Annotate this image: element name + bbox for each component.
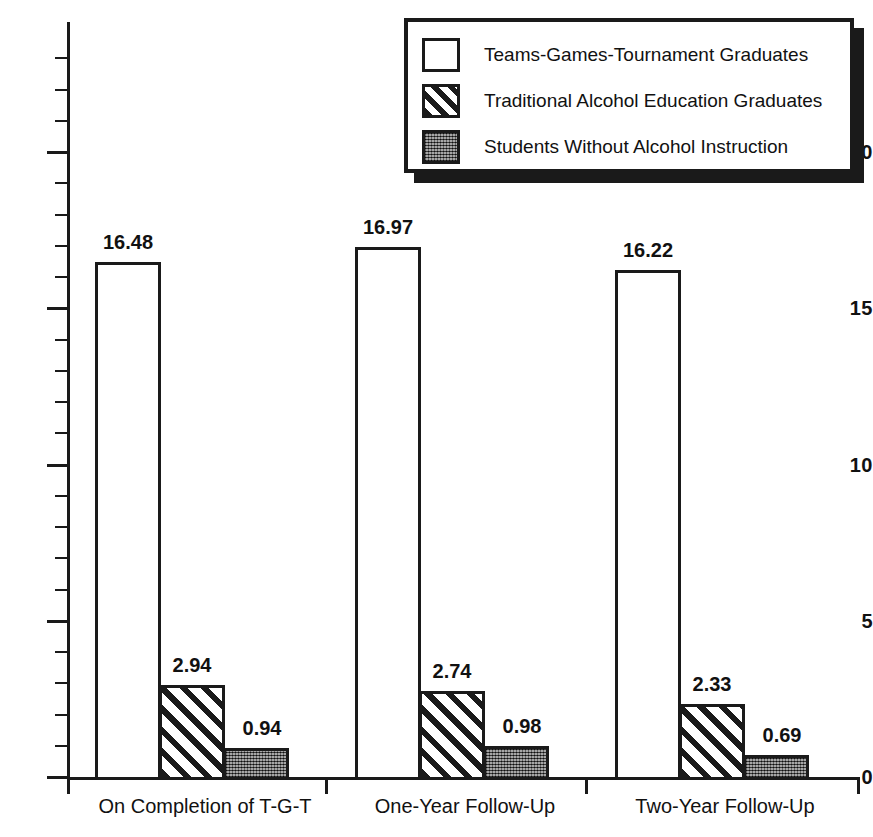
legend-swatch-icon xyxy=(422,130,460,164)
y-axis-minor-tick xyxy=(55,120,67,122)
y-axis-minor-tick xyxy=(55,745,67,747)
y-axis-line xyxy=(67,22,70,779)
bar-value-label: 16.22 xyxy=(623,239,673,262)
y-axis-major-tick xyxy=(47,464,67,467)
y-axis-minor-tick xyxy=(55,714,67,716)
bar-value-label: 2.94 xyxy=(173,654,212,677)
y-axis-minor-tick xyxy=(55,495,67,497)
legend-item-label: Students Without Alcohol Instruction xyxy=(484,136,788,158)
legend-item-label: Traditional Alcohol Education Graduates xyxy=(484,90,822,112)
bar xyxy=(95,262,161,780)
bar xyxy=(679,704,745,780)
y-axis-tick-label: 5 xyxy=(829,609,873,632)
x-axis-category-label: On Completion of T-G-T xyxy=(98,795,311,818)
bar-value-label: 16.97 xyxy=(363,216,413,239)
y-axis-minor-tick xyxy=(55,432,67,434)
y-axis-minor-tick xyxy=(55,214,67,216)
y-axis-minor-tick xyxy=(55,276,67,278)
legend-item: Traditional Alcohol Education Graduates xyxy=(422,78,850,123)
y-axis-major-tick xyxy=(47,620,67,623)
bar-value-label: 16.48 xyxy=(103,231,153,254)
y-axis-tick-label: 15 xyxy=(829,297,873,320)
x-axis-category-label: Two-Year Follow-Up xyxy=(635,795,814,818)
y-axis-major-tick xyxy=(47,307,67,310)
bar xyxy=(615,270,681,780)
bar-value-label: 2.33 xyxy=(693,673,732,696)
y-axis-minor-tick xyxy=(55,589,67,591)
x-axis-tick xyxy=(857,777,860,794)
x-axis-tick xyxy=(67,777,70,794)
y-axis-minor-tick xyxy=(55,557,67,559)
bar xyxy=(355,247,421,780)
y-axis-minor-tick xyxy=(55,182,67,184)
legend-swatch-icon xyxy=(422,84,460,118)
bar-chart: 05101520 On Completion of T-G-TOne-Year … xyxy=(0,0,873,837)
bar xyxy=(223,748,289,780)
y-axis-minor-tick xyxy=(55,370,67,372)
x-axis-tick xyxy=(585,777,588,794)
y-axis-minor-tick xyxy=(55,526,67,528)
legend-item-label: Teams-Games-Tournament Graduates xyxy=(484,44,808,66)
legend-item: Students Without Alcohol Instruction xyxy=(422,124,850,169)
y-axis-minor-tick xyxy=(55,401,67,403)
bar-value-label: 0.94 xyxy=(243,717,282,740)
legend: Teams-Games-Tournament GraduatesTraditio… xyxy=(404,18,854,173)
y-axis-minor-tick xyxy=(55,245,67,247)
bar xyxy=(483,746,549,780)
x-axis-tick xyxy=(325,777,328,794)
bar xyxy=(743,755,809,780)
y-axis-minor-tick xyxy=(55,89,67,91)
y-axis-tick-label: 10 xyxy=(829,453,873,476)
y-axis-minor-tick xyxy=(55,57,67,59)
y-axis-major-tick xyxy=(47,151,67,154)
bar-value-label: 2.74 xyxy=(433,660,472,683)
x-axis-category-label: One-Year Follow-Up xyxy=(375,795,555,818)
legend-swatch-icon xyxy=(422,38,460,72)
legend-item: Teams-Games-Tournament Graduates xyxy=(422,32,850,77)
bar xyxy=(159,685,225,780)
y-axis-minor-tick xyxy=(55,651,67,653)
y-axis-minor-tick xyxy=(55,682,67,684)
bar-value-label: 0.98 xyxy=(503,715,542,738)
y-axis-minor-tick xyxy=(55,339,67,341)
bar xyxy=(419,691,485,780)
y-axis-major-tick xyxy=(47,776,67,779)
bar-value-label: 0.69 xyxy=(763,724,802,747)
